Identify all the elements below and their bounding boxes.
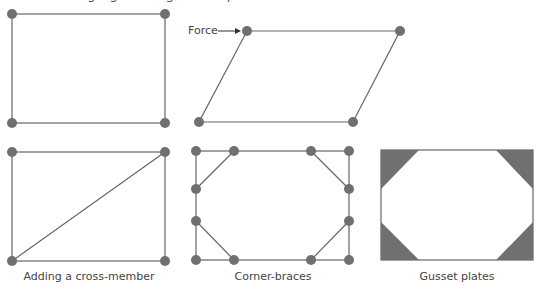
caption-gusset-plates: Gusset plates	[367, 270, 544, 283]
corner-braces-nodes	[191, 146, 354, 265]
gusset-plates-frame	[381, 150, 533, 260]
frames-diagram	[0, 0, 544, 292]
caption-cross-member: Adding a cross-member	[0, 270, 179, 283]
corner-braces-frame	[196, 151, 349, 260]
force-label: Force	[188, 24, 218, 37]
square-frame-nodes	[7, 9, 170, 128]
square-frame	[12, 14, 165, 123]
deformed-frame	[199, 31, 400, 122]
force-arrow-icon	[218, 28, 241, 34]
caption-corner-braces: Corner-braces	[183, 270, 363, 283]
deformed-frame-nodes	[194, 26, 405, 127]
cross-member-frame	[12, 152, 165, 261]
